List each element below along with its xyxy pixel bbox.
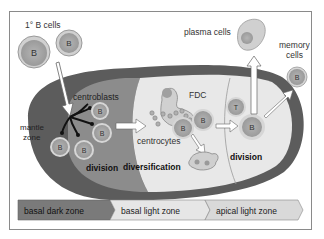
mantle-zone-label-1: mantle bbox=[20, 123, 45, 132]
germinal-center-diagram: B B 1° B cells centroblasts mantle zone … bbox=[0, 0, 324, 239]
centroblasts-label: centroblasts bbox=[73, 92, 119, 102]
svg-text:T: T bbox=[234, 104, 239, 111]
svg-text:B: B bbox=[181, 125, 186, 132]
svg-text:B: B bbox=[31, 48, 37, 58]
t-cell: T bbox=[226, 97, 246, 117]
zone-banner: basal dark zone basal light zone apical … bbox=[18, 200, 303, 220]
svg-text:B: B bbox=[295, 74, 300, 81]
zone-label-basal-light: basal light zone bbox=[121, 206, 180, 216]
centroblast-cell-1: B bbox=[91, 102, 109, 120]
centroblast-cell-4: B bbox=[74, 140, 94, 160]
zone-label-apical-light: apical light zone bbox=[216, 206, 277, 216]
diversification-label: diversification bbox=[123, 162, 181, 172]
zone-label-basal-dark: basal dark zone bbox=[24, 206, 84, 216]
centroblast-cell-2: B bbox=[92, 123, 112, 143]
plasma-cell bbox=[238, 19, 266, 50]
fdc-label: FDC bbox=[189, 90, 206, 100]
naive-b-cells-label: 1° B cells bbox=[25, 20, 61, 30]
memory-cells-label-1: memory bbox=[279, 40, 310, 50]
memory-cell: B bbox=[287, 67, 307, 87]
svg-text:B: B bbox=[82, 147, 87, 154]
division-left-label: division bbox=[86, 163, 118, 173]
centrocyte-cell-2: B bbox=[192, 109, 214, 131]
mantle-zone-label-2: zone bbox=[23, 133, 41, 142]
apoptotic-cell bbox=[189, 152, 218, 170]
svg-text:B: B bbox=[98, 108, 103, 115]
naive-b-cell-2: B bbox=[56, 30, 82, 56]
apical-b-cell: B bbox=[239, 114, 265, 140]
svg-text:B: B bbox=[249, 123, 254, 132]
svg-text:B: B bbox=[66, 39, 71, 48]
svg-text:B: B bbox=[201, 117, 206, 124]
svg-text:B: B bbox=[100, 130, 105, 137]
svg-text:B: B bbox=[58, 144, 63, 151]
division-right-label: division bbox=[230, 152, 262, 162]
plasma-cells-label: plasma cells bbox=[184, 27, 231, 37]
memory-cells-label-2: cells bbox=[286, 50, 303, 60]
centrocytes-label: centrocytes bbox=[137, 136, 180, 146]
centroblast-cell-3: B bbox=[50, 137, 70, 157]
naive-b-cell-1: B bbox=[18, 36, 50, 68]
